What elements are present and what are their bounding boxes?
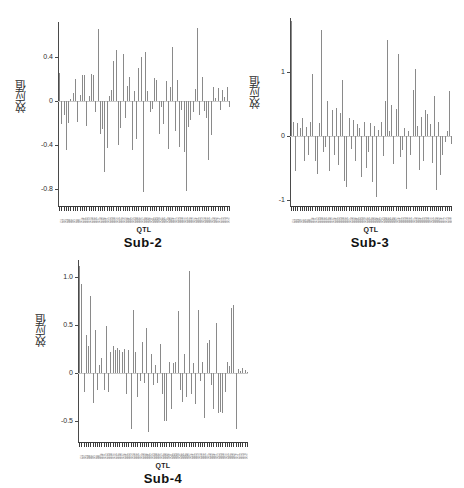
bar bbox=[128, 350, 129, 373]
bar bbox=[115, 350, 116, 373]
bar bbox=[152, 101, 153, 109]
bar bbox=[168, 101, 169, 148]
bar bbox=[120, 101, 121, 127]
bar bbox=[93, 373, 94, 403]
x-tick-mark bbox=[306, 207, 307, 211]
bar bbox=[359, 128, 360, 136]
x-tick-mark bbox=[168, 207, 169, 211]
x-tick-mark bbox=[169, 443, 170, 447]
y-axis-label-sub-2: 效应值 bbox=[14, 80, 30, 113]
x-tick-mark bbox=[202, 443, 203, 447]
panel-title-sub-4: Sub-4 bbox=[68, 471, 258, 486]
x-tick-mark bbox=[84, 207, 85, 211]
bar bbox=[195, 89, 196, 101]
x-tick-mark bbox=[110, 443, 111, 447]
bar bbox=[117, 348, 118, 373]
x-tick-mark bbox=[325, 207, 326, 211]
bar bbox=[189, 271, 190, 373]
x-tick-mark bbox=[415, 207, 416, 211]
x-tick-mark bbox=[389, 207, 390, 211]
x-tick-mark bbox=[387, 207, 388, 211]
bar bbox=[222, 373, 223, 413]
x-tick-label-group: Q1Q2Q3Q4Q5Q6Q7Q8Q9Q10Q11Q12Q13Q14Q15Q16Q… bbox=[78, 448, 248, 460]
bar bbox=[64, 101, 65, 114]
x-tick-mark bbox=[315, 207, 316, 211]
bar bbox=[182, 373, 183, 402]
x-tick-mark bbox=[164, 443, 165, 447]
bar bbox=[86, 335, 87, 373]
bar bbox=[184, 354, 185, 373]
x-tick-mark bbox=[190, 207, 191, 211]
y-tick-label: 0 bbox=[264, 132, 285, 139]
bar bbox=[95, 330, 96, 373]
bar bbox=[308, 136, 309, 155]
bar bbox=[80, 95, 81, 102]
x-tick-mark bbox=[61, 207, 62, 211]
plot-area-sub-2: 0.40-0.4-0.8Q1Q2Q3Q4Q5Q6Q7Q8Q9Q10Q11Q12Q… bbox=[58, 22, 230, 206]
bar bbox=[372, 136, 373, 182]
x-tick-mark bbox=[138, 207, 139, 211]
bar bbox=[132, 101, 133, 149]
x-tick-mark bbox=[166, 443, 167, 447]
x-tick-mark bbox=[193, 207, 194, 211]
bar bbox=[293, 122, 294, 136]
x-tick-mark bbox=[238, 443, 239, 447]
y-tick-mark bbox=[75, 421, 78, 422]
x-tick-mark bbox=[438, 207, 439, 211]
x-tick-mark bbox=[199, 207, 200, 211]
bar bbox=[91, 74, 92, 102]
x-tick-mark bbox=[447, 207, 448, 211]
x-tick-mark bbox=[111, 207, 112, 211]
bar bbox=[178, 311, 179, 373]
bar bbox=[88, 346, 89, 373]
bar bbox=[156, 80, 157, 101]
x-tick-mark bbox=[181, 207, 182, 211]
x-tick-mark bbox=[115, 443, 116, 447]
bar bbox=[368, 136, 369, 153]
x-tick-mark bbox=[423, 207, 424, 211]
bar bbox=[66, 101, 67, 149]
y-tick-mark bbox=[55, 57, 58, 58]
x-tick-mark bbox=[372, 207, 373, 211]
y-tick-label: 0.4 bbox=[32, 53, 53, 60]
bar bbox=[209, 340, 210, 374]
x-tick-mark bbox=[66, 207, 67, 211]
bar bbox=[171, 373, 172, 409]
bar bbox=[344, 136, 345, 181]
bar bbox=[323, 136, 324, 152]
x-tick-mark bbox=[332, 207, 333, 211]
bar bbox=[104, 101, 105, 172]
bar bbox=[225, 373, 226, 392]
x-tick-mark bbox=[215, 207, 216, 211]
x-tick-mark bbox=[170, 207, 171, 211]
bar bbox=[166, 373, 167, 421]
x-tick-mark bbox=[427, 207, 428, 211]
bar bbox=[213, 87, 214, 101]
bar bbox=[233, 305, 234, 373]
x-tick-mark bbox=[222, 443, 223, 447]
x-tick-mark bbox=[137, 443, 138, 447]
bar bbox=[381, 122, 382, 136]
bar bbox=[141, 57, 142, 101]
x-tick-mark bbox=[378, 207, 379, 211]
y-tick-label: -1 bbox=[264, 196, 285, 203]
bar bbox=[175, 362, 176, 373]
bar bbox=[438, 122, 439, 136]
bar bbox=[102, 101, 103, 129]
bar bbox=[231, 308, 232, 373]
bar bbox=[98, 29, 99, 102]
x-tick-mark bbox=[346, 207, 347, 211]
x-tick-mark bbox=[297, 207, 298, 211]
x-tick-mark bbox=[385, 207, 386, 211]
bar bbox=[198, 310, 199, 373]
bar bbox=[68, 101, 69, 123]
x-tick-mark bbox=[108, 443, 109, 447]
x-tick-mark bbox=[166, 207, 167, 211]
x-tick-mark bbox=[240, 443, 241, 447]
bar bbox=[338, 136, 339, 165]
bar bbox=[236, 373, 237, 429]
x-tick-mark bbox=[97, 443, 98, 447]
x-tick-mark bbox=[119, 443, 120, 447]
bar bbox=[136, 101, 137, 138]
bar bbox=[95, 101, 96, 112]
